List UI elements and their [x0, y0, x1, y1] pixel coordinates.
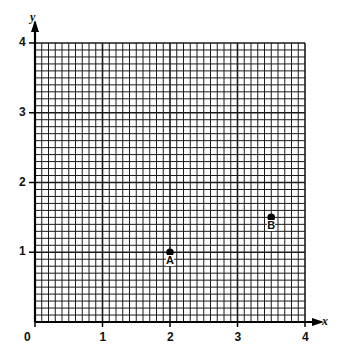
point-label-a: A	[166, 255, 174, 266]
point-label-b: B	[267, 220, 275, 231]
y-tick-label: 4	[19, 35, 26, 49]
x-tick-label: 2	[167, 330, 174, 344]
x-axis-label: x	[322, 314, 328, 329]
y-tick-label: 1	[19, 244, 26, 258]
x-tick-label: 4	[302, 330, 309, 344]
x-tick-label: 0	[24, 330, 31, 344]
coordinate-grid	[0, 0, 343, 353]
x-tick-label: 3	[235, 330, 242, 344]
y-axis-label: y	[30, 10, 35, 25]
data-points	[166, 214, 275, 256]
grid-lines	[35, 43, 305, 322]
y-tick-label: 3	[19, 105, 26, 119]
x-tick-label: 1	[100, 330, 107, 344]
y-tick-label: 2	[19, 175, 26, 189]
